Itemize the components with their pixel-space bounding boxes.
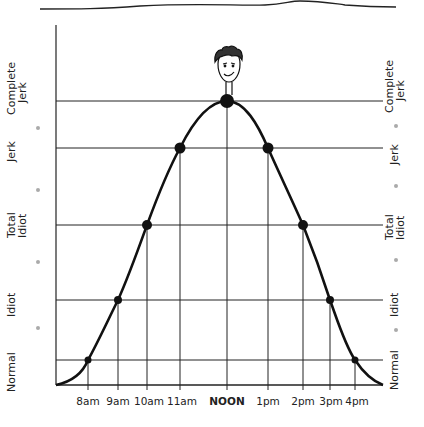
right-label-total-idiot: Total Idiot [383, 211, 407, 241]
x-label-8am: 8am [76, 395, 99, 407]
right-y-labels: Normal Idiot Total Idiot Jerk Complete J… [383, 56, 407, 390]
left-label-total-idiot: Total Idiot [5, 209, 29, 239]
x-labels: 8am 9am 10am 11am NOON 1pm 2pm 3pm 4pm [76, 395, 368, 407]
x-label-10am: 10am [134, 395, 164, 407]
horizontal-gridlines [56, 101, 383, 360]
right-label-jerk: Jerk [388, 143, 401, 166]
point-noon [220, 94, 234, 108]
left-label-idiot: Idiot [5, 292, 18, 317]
left-label-complete-jerk: Complete Jerk [5, 58, 29, 115]
point-9am [114, 296, 122, 304]
point-2pm [298, 220, 308, 230]
left-y-labels: Normal Idiot Total Idiot Jerk Complete J… [5, 58, 40, 392]
right-label-idiot: Idiot [388, 292, 401, 317]
x-label-2pm: 2pm [291, 395, 315, 407]
left-label-jerk: Jerk [5, 140, 18, 163]
point-4pm [352, 357, 359, 364]
x-label-noon: NOON [209, 395, 244, 407]
jerk-curve [56, 101, 383, 385]
x-label-3pm: 3pm [319, 395, 343, 407]
jerk-chart: Normal Idiot Total Idiot Jerk Complete J… [0, 0, 424, 427]
right-label-complete-jerk: Complete Jerk [383, 56, 407, 113]
point-8am [85, 357, 92, 364]
point-3pm [326, 296, 334, 304]
right-label-normal: Normal [388, 350, 401, 390]
x-label-9am: 9am [106, 395, 129, 407]
point-11am [175, 143, 186, 154]
face-icon [215, 46, 242, 95]
x-label-4pm: 4pm [345, 395, 369, 407]
point-10am [142, 220, 152, 230]
top-border-line [40, 1, 396, 9]
x-label-11am: 11am [167, 395, 197, 407]
point-1pm [263, 143, 274, 154]
vertical-gridlines [88, 101, 355, 390]
data-points [85, 94, 359, 364]
x-label-1pm: 1pm [256, 395, 280, 407]
left-label-normal: Normal [5, 352, 18, 392]
